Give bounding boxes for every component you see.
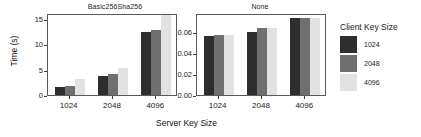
chart-figure: Basic256Sha256 None Time (s) 051015 1024…: [0, 0, 421, 137]
y-tick-mark: [193, 75, 196, 76]
x-tick-mark: [155, 96, 156, 99]
y-tick-mark: [44, 71, 47, 72]
y-tick-mark: [44, 96, 47, 97]
bar: [214, 35, 224, 95]
x-tick-label: 4096: [135, 101, 175, 110]
bar-group: [240, 14, 283, 95]
x-tick-label: 2048: [241, 101, 281, 110]
y-tick-mark: [193, 96, 196, 97]
legend-swatch: [340, 55, 357, 72]
panel-none: [196, 14, 326, 96]
bar: [247, 32, 257, 95]
x-tick-mark: [261, 96, 262, 99]
legend-item[interactable]: 2048: [340, 55, 420, 72]
bar: [141, 32, 151, 95]
x-tick-label: 2048: [92, 101, 132, 110]
bar: [257, 28, 267, 95]
x-axis-label: Server Key Size: [47, 118, 326, 128]
y-tick-mark: [193, 33, 196, 34]
bar-group: [284, 14, 326, 95]
bar-group: [48, 14, 91, 95]
y-tick-label: 0.00: [166, 91, 192, 100]
y-tick-label: 0.06: [166, 28, 192, 37]
bar: [224, 35, 234, 95]
plot-area-right: [197, 15, 325, 95]
bar: [55, 87, 65, 95]
facet-title-left: Basic256Sha256: [45, 3, 185, 10]
bar-group: [91, 14, 134, 95]
x-tick-mark: [218, 96, 219, 99]
bar: [290, 18, 300, 95]
bar: [267, 28, 277, 95]
bar: [75, 79, 85, 95]
bar-group: [197, 14, 240, 95]
y-tick-mark: [44, 45, 47, 46]
plot-area-left: [48, 15, 176, 95]
y-tick-mark: [193, 54, 196, 55]
legend-item[interactable]: 1024: [340, 36, 420, 53]
legend-swatch: [340, 36, 357, 53]
y-tick-label: 15: [17, 15, 43, 24]
x-tick-label: 1024: [198, 101, 238, 110]
x-tick-label: 4096: [284, 101, 324, 110]
bar: [98, 76, 108, 95]
legend-swatch: [340, 74, 357, 91]
y-tick-mark: [44, 20, 47, 21]
x-tick-mark: [69, 96, 70, 99]
y-tick-label: 5: [17, 66, 43, 75]
legend: Client Key Size 102420484096: [340, 22, 420, 93]
bar: [300, 18, 310, 95]
y-tick-label: 0.02: [166, 70, 192, 79]
bar: [310, 18, 320, 95]
legend-title: Client Key Size: [340, 22, 420, 32]
legend-items: 102420484096: [340, 36, 420, 91]
bar: [65, 86, 75, 95]
panel-basic256sha256: [47, 14, 177, 96]
legend-item-label: 2048: [364, 60, 380, 67]
x-tick-label: 1024: [49, 101, 89, 110]
x-tick-mark: [112, 96, 113, 99]
bar: [118, 68, 128, 95]
bar: [151, 30, 161, 95]
bar: [108, 74, 118, 95]
x-tick-mark: [304, 96, 305, 99]
bar: [204, 36, 214, 95]
y-tick-label: 0: [17, 91, 43, 100]
legend-item[interactable]: 4096: [340, 74, 420, 91]
legend-item-label: 4096: [364, 79, 380, 86]
y-tick-label: 0.04: [166, 49, 192, 58]
facet-title-right: None: [195, 3, 325, 10]
y-tick-label: 10: [17, 40, 43, 49]
legend-item-label: 1024: [364, 41, 380, 48]
